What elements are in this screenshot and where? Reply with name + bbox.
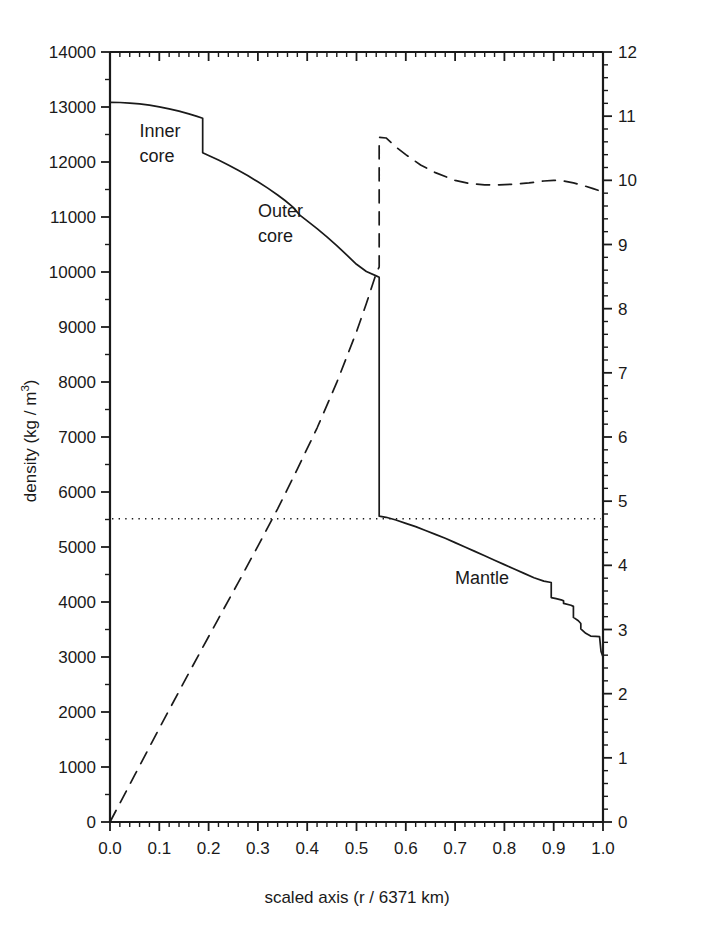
x-tick-label: 0.8 [493,839,517,858]
annotation-mantle: Mantle [455,568,509,588]
x-axis-title: scaled axis (r / 6371 km) [110,888,604,908]
x-tick-label: 0.9 [542,839,566,858]
y-tick-label-left: 11000 [50,208,96,227]
y-tick-label-left: 2000 [58,703,96,722]
annotation-outer-core: Outercore [258,201,303,246]
y-tick-label-left: 8000 [58,373,96,392]
series-density [110,102,603,657]
x-tick-label: 0.5 [345,839,369,858]
y-tick-label-left: 6000 [58,483,96,502]
y-tick-label-right: 11 [618,107,636,126]
y-tick-label-right: 3 [618,621,627,640]
figure-earth-interior-profile: 0.00.10.20.30.40.50.60.70.80.91.00100020… [0,0,710,936]
series-gravitational-acceleration [110,137,603,822]
x-tick-label: 1.0 [591,839,615,858]
x-tick-label: 0.4 [295,839,319,858]
y-axis-left-title: density (kg / m3) [19,291,41,591]
y-tick-label-right: 7 [618,364,627,383]
y-tick-label-left: 14000 [49,43,96,62]
y-tick-label-right: 10 [618,171,637,190]
y-tick-label-left: 5000 [58,538,96,557]
y-tick-label-left: 7000 [58,428,96,447]
y-tick-label-left: 12000 [49,153,96,172]
y-tick-label-left: 3000 [58,648,96,667]
x-tick-label: 0.0 [98,839,122,858]
annotation-inner-core: Innercore [140,121,181,166]
y-tick-label-right: 2 [618,685,627,704]
x-tick-label: 0.7 [443,839,467,858]
y-tick-label-left: 4000 [58,593,96,612]
y-tick-label-right: 12 [618,43,637,62]
x-tick-label: 0.3 [246,839,270,858]
x-tick-label: 0.1 [147,839,171,858]
y-tick-label-right: 9 [618,236,627,255]
y-tick-label-left: 9000 [58,318,96,337]
plot-canvas: 0.00.10.20.30.40.50.60.70.80.91.00100020… [0,0,710,936]
y-tick-label-left: 1000 [58,758,96,777]
x-tick-label: 0.6 [394,839,418,858]
y-tick-label-left: 13000 [49,98,96,117]
y-tick-label-right: 4 [618,556,627,575]
y-tick-label-left: 10000 [49,263,96,282]
y-tick-label-right: 8 [618,300,627,319]
x-tick-label: 0.2 [197,839,221,858]
y-tick-label-right: 6 [618,428,627,447]
y-tick-label-right: 0 [618,813,627,832]
y-tick-label-right: 5 [618,492,627,511]
y-tick-label-left: 0 [87,813,96,832]
y-tick-label-right: 1 [618,749,627,768]
